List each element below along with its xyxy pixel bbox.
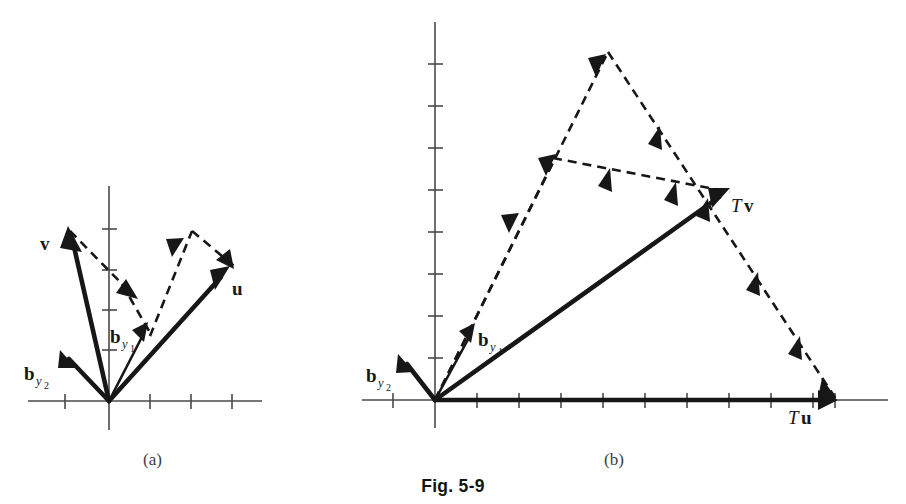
label-by1-sub-b: y [488,340,496,354]
arrowhead-b-inner-2 [598,168,612,192]
label-by2-sub-index: 2 [44,380,49,391]
figure-caption: Fig. 5-9 [421,476,485,496]
arrowhead-b-outer-apex [588,54,606,77]
panel-a-axes [28,186,262,430]
label-by2-panel-b: b y 2 [366,365,391,393]
panel-a: v u b y 1 b y 2 (a) [24,186,262,469]
arrowhead-b-outer-mid2 [648,126,662,150]
arrowhead-b-by2 [396,354,414,373]
arrowhead-b-outer-mid4 [746,272,760,296]
arrowhead-a-by2 [58,350,76,368]
label-by2-panel-a: b y 2 [24,363,49,391]
panel-b-vector-Tv [435,188,730,400]
label-by1-sub-index-b: 1 [498,346,503,357]
label-Tv-vector: v [744,195,754,216]
label-Tu-operator: T [788,407,800,428]
label-by2-base-b: b [366,365,377,386]
label-u: u [232,278,243,299]
label-by2-sub: y [34,374,42,388]
label-v: v [40,233,50,254]
label-by1-panel-b: b y 1 [478,329,503,357]
panel-label-b: (b) [604,450,624,469]
label-Tu: T u [788,407,812,428]
label-by2-sub-index-b: 2 [386,382,391,393]
panel-b-dashed-inner [435,154,730,400]
figure-canvas: v u b y 1 b y 2 (a) [0,0,906,504]
arrowhead-dashed-a-v [116,279,138,299]
label-Tv: T v [731,195,754,216]
panel-a-dashed-u [150,231,234,336]
arrowhead-b-outer-mid1 [501,213,519,233]
label-by2-sub-b: y [376,376,384,390]
label-by1-sub: y [120,337,128,351]
panel-b-axes [362,22,888,428]
label-by1-sub-index: 1 [130,343,135,354]
label-by2-base: b [24,363,35,384]
label-Tv-operator: T [731,195,743,216]
panel-b-vector-Tu [435,390,838,410]
arrowhead-dashed-a-u1 [166,238,184,257]
label-by1-base-b: b [478,329,489,350]
arrowhead-a-v [60,226,82,252]
panel-label-a: (a) [143,450,162,469]
arrowhead-b-inner-3 [664,182,678,206]
panel-b: T v T u b y 1 b y 2 (b) [362,22,888,469]
panel-b-vector-by2 [396,354,435,400]
figure-root: v u b y 1 b y 2 (a) [0,0,906,504]
arrowhead-b-outer-mid5 [788,336,802,360]
label-Tu-vector: u [801,407,812,428]
label-by1-base: b [110,326,121,347]
